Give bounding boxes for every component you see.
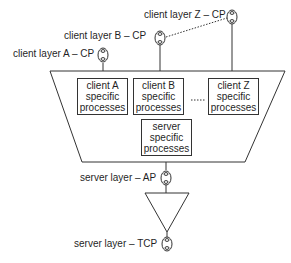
box-line: server <box>142 121 191 132</box>
box-line: processes <box>134 102 183 113</box>
box-client-b-processes: client B specific processes <box>133 78 184 115</box>
label-client-layer-b-cp: client layer B – CP <box>64 30 146 42</box>
box-server-processes: server specific processes <box>141 119 192 156</box>
box-line: specific <box>78 91 127 102</box>
box-line: specific <box>134 91 183 102</box>
label-server-layer-tcp: server layer – TCP <box>74 238 157 250</box>
label-client-layer-a-cp: client layer A – CP <box>13 48 94 60</box>
connection-point-icon <box>227 10 237 24</box>
box-line: processes <box>78 102 127 113</box>
label-client-layer-z-cp: client layer Z – CP <box>144 9 226 21</box>
connection-point-icon <box>155 31 165 45</box>
label-server-layer-ap: server layer – AP <box>80 172 156 184</box>
termination-triangle <box>145 193 189 232</box>
box-line: specific <box>209 91 258 102</box>
connection-point-icon <box>98 48 108 62</box>
box-line: processes <box>142 143 191 154</box>
box-client-a-processes: client A specific processes <box>77 78 128 115</box>
connection-point-icon <box>161 171 171 185</box>
box-client-z-processes: client Z specific processes <box>208 78 259 115</box>
box-line: client A <box>78 80 127 91</box>
connection-point-icon <box>162 237 172 251</box>
box-line: client B <box>134 80 183 91</box>
box-line: client Z <box>209 80 258 91</box>
box-line: processes <box>209 102 258 113</box>
box-line: specific <box>142 132 191 143</box>
